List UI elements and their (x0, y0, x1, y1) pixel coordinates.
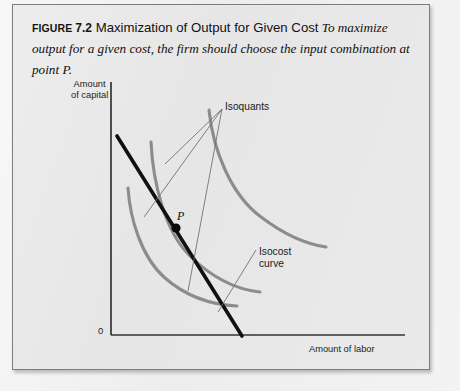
tangency-point-marker (171, 223, 180, 232)
figure-box: FIGURE 7.2 Maximization of Output for Gi… (12, 4, 430, 370)
axes (111, 82, 405, 335)
x-axis-label: Amount of labor (309, 344, 375, 355)
origin-label: 0 (98, 325, 103, 336)
isoquants-annotation-label: Isoquants (225, 101, 269, 113)
isocost-annotation-label: Isocost curve (259, 246, 291, 271)
isoquant-curve-3 (209, 110, 326, 247)
figure-page: FIGURE 7.2 Maximization of Output for Gi… (0, 0, 460, 391)
isoquant-curves (128, 110, 326, 306)
y-axis-label: Amount of capital (71, 79, 108, 101)
tangency-point-label: P (177, 209, 184, 224)
chart-area: Amount of capital Amount of labor 0 Isoq… (13, 5, 429, 369)
isoquants-leader-line-1 (144, 109, 222, 217)
chart-svg (13, 5, 429, 369)
